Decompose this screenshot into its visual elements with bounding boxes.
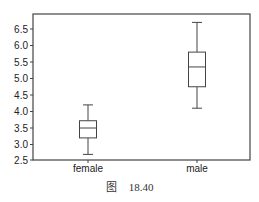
y-tick-label: 3.0	[14, 139, 28, 150]
boxes	[80, 22, 206, 154]
x-category-label: male	[186, 163, 208, 174]
y-tick-label: 2.5	[14, 155, 28, 166]
y-tick-label: 6.0	[14, 40, 28, 51]
y-tick-label: 5.0	[14, 73, 28, 84]
y-tick-label: 5.5	[14, 57, 28, 68]
plot-border	[33, 14, 250, 160]
x-category-label: female	[73, 163, 103, 174]
y-tick-label: 6.5	[14, 24, 28, 35]
figure-caption: 图18.40	[0, 178, 259, 194]
box-female	[80, 105, 97, 154]
iqr-box	[189, 52, 206, 87]
caption-number: 18.40	[129, 181, 154, 193]
box-male	[189, 22, 206, 108]
y-tick-label: 4.5	[14, 90, 28, 101]
x-axis: femalemale	[73, 160, 208, 174]
caption-prefix: 图	[106, 181, 117, 193]
iqr-box	[80, 121, 97, 138]
box-plot-chart: 2.53.03.54.04.55.05.56.06.5 femalemale	[0, 0, 259, 178]
plot-frame	[33, 14, 250, 160]
y-tick-label: 3.5	[14, 123, 28, 134]
y-axis: 2.53.03.54.04.55.05.56.06.5	[14, 24, 33, 166]
y-tick-label: 4.0	[14, 106, 28, 117]
